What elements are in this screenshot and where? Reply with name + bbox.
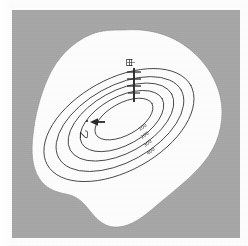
contour-map-figure: 甲 乙 100 200 300 400 bbox=[0, 0, 248, 246]
contour-map-canvas: 甲 乙 100 200 300 400 bbox=[0, 0, 248, 246]
label-point-b: 乙 bbox=[79, 130, 89, 139]
arrow-target-dot bbox=[86, 120, 88, 122]
label-point-a: 甲 bbox=[126, 58, 136, 67]
